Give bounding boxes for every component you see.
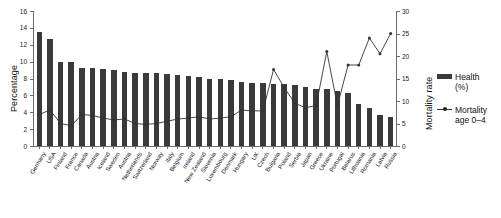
x-tick bbox=[252, 146, 253, 149]
x-tick bbox=[156, 146, 157, 149]
mortality-line-path bbox=[39, 34, 390, 126]
x-tick bbox=[348, 146, 349, 149]
x-tick bbox=[337, 146, 338, 149]
y-axis-left-title: Percentage bbox=[9, 65, 19, 112]
mortality-data-point: Poland: 13 bbox=[283, 86, 286, 89]
y-tick-label-left: 16 bbox=[11, 8, 27, 15]
y-tick-label-left: 14 bbox=[11, 24, 27, 31]
y-tick-right bbox=[397, 56, 400, 57]
y-tick-right bbox=[397, 124, 400, 125]
x-tick bbox=[262, 146, 263, 149]
x-tick bbox=[380, 146, 381, 149]
x-tick bbox=[316, 146, 317, 149]
mortality-data-point: Sweden: 5.8 bbox=[112, 118, 115, 121]
y-tick-left bbox=[30, 62, 33, 63]
y-tick-left bbox=[30, 95, 33, 96]
x-tick bbox=[326, 146, 327, 149]
mortality-data-point: Austria: 6 bbox=[123, 118, 126, 121]
x-tick bbox=[273, 146, 274, 149]
legend-item-health: Health (%) bbox=[437, 72, 501, 92]
y-tick-left bbox=[30, 112, 33, 113]
x-tick bbox=[135, 146, 136, 149]
y-tick-left bbox=[30, 129, 33, 130]
legend-label-mortality-line1: Mortality bbox=[455, 105, 501, 115]
mortality-data-point: Greece: 9 bbox=[315, 104, 318, 107]
y-tick-right bbox=[397, 34, 400, 35]
mortality-data-point: Hungary: 8 bbox=[240, 109, 243, 112]
y-tick-label-left: 0 bbox=[11, 143, 27, 150]
legend-label-health-line1: Health bbox=[455, 72, 501, 82]
x-tick bbox=[284, 146, 285, 149]
mortality-data-point: Romania: 24 bbox=[368, 37, 371, 40]
legend-label-mortality-line2: age 0–4 bbox=[455, 115, 501, 125]
y-axis-right-title: Mortality rate bbox=[424, 77, 434, 130]
x-tick bbox=[49, 146, 50, 149]
mortality-data-point: Ukraine: 21 bbox=[325, 50, 328, 53]
mortality-data-point: Slovenia: 6 bbox=[208, 118, 211, 121]
y-tick-label-left: 2 bbox=[11, 126, 27, 133]
x-tick bbox=[113, 146, 114, 149]
x-tick bbox=[305, 146, 306, 149]
bar-swatch-icon bbox=[437, 74, 452, 79]
line-series-mortality: Germany: 7USA: 8Finland: 5France: 4.5Can… bbox=[34, 11, 396, 146]
x-tick bbox=[81, 146, 82, 149]
mortality-data-point: France: 4.5 bbox=[70, 124, 73, 127]
x-tick bbox=[230, 146, 231, 149]
legend-label-health-line2: (%) bbox=[455, 82, 501, 92]
y-tick-label-left: 8 bbox=[11, 75, 27, 82]
x-tick bbox=[103, 146, 104, 149]
mortality-data-point: Serbia: 9.5 bbox=[293, 102, 296, 105]
y-tick-right bbox=[397, 11, 400, 12]
mortality-data-point: Belgium: 6 bbox=[176, 118, 179, 121]
x-tick bbox=[39, 146, 40, 149]
mortality-data-point: Bulgaria: 17 bbox=[272, 68, 275, 71]
mortality-data-point: UK: 7.8 bbox=[251, 109, 254, 112]
x-tick bbox=[92, 146, 93, 149]
x-tick bbox=[188, 146, 189, 149]
x-tick bbox=[209, 146, 210, 149]
mortality-data-point: Netherlands: 5 bbox=[134, 122, 137, 125]
y-tick-left bbox=[30, 28, 33, 29]
mortality-data-point: Austria: 6.8 bbox=[91, 114, 94, 117]
y-tick-label-left: 10 bbox=[11, 58, 27, 65]
mortality-data-point: Russia: 25 bbox=[389, 32, 392, 35]
mortality-data-point: Lithuania: 18 bbox=[357, 64, 360, 67]
x-tick bbox=[358, 146, 359, 149]
y-tick-label-right: 25 bbox=[402, 30, 418, 37]
dual-axis-chart: Percentage Mortality rate 0246810121416 … bbox=[0, 0, 501, 218]
mortality-data-point: Canada: 7 bbox=[80, 113, 83, 116]
y-tick-label-right: 5 bbox=[402, 120, 418, 127]
mortality-data-point: Belarus: 18 bbox=[347, 64, 350, 67]
x-tick bbox=[199, 146, 200, 149]
x-tick bbox=[369, 146, 370, 149]
y-tick-label-left: 12 bbox=[11, 41, 27, 48]
y-tick-label-left: 6 bbox=[11, 92, 27, 99]
y-tick-label-right: 30 bbox=[402, 8, 418, 15]
mortality-data-point: Denmark: 6.5 bbox=[229, 115, 232, 118]
mortality-data-point: Japan: 8.5 bbox=[304, 106, 307, 109]
y-tick-left bbox=[30, 45, 33, 46]
mortality-data-point: Switzerland: 4.8 bbox=[144, 123, 147, 126]
x-tick bbox=[60, 146, 61, 149]
x-tick bbox=[124, 146, 125, 149]
mortality-data-point: Germany: 7 bbox=[38, 113, 41, 116]
y-tick-left bbox=[30, 11, 33, 12]
x-axis-category-labels: GermanyUSAFinlandFranceCanadaAustriaIcel… bbox=[34, 149, 396, 215]
line-dot-swatch-icon bbox=[437, 109, 452, 110]
x-tick bbox=[220, 146, 221, 149]
y-tick-label-right: 10 bbox=[402, 98, 418, 105]
y-tick-label-right: 15 bbox=[402, 75, 418, 82]
chart-legend: Health (%) Mortality age 0–4 bbox=[437, 72, 501, 138]
y-tick-label-right: 20 bbox=[402, 53, 418, 60]
mortality-data-point: Finland: 5 bbox=[59, 122, 62, 125]
x-tick bbox=[177, 146, 178, 149]
legend-item-mortality: Mortality age 0–4 bbox=[437, 105, 501, 125]
x-tick bbox=[71, 146, 72, 149]
mortality-data-point: USA: 8 bbox=[48, 109, 51, 112]
x-tick bbox=[390, 146, 391, 149]
y-tick-left bbox=[30, 79, 33, 80]
mortality-data-point: Czech: 7.8 bbox=[261, 109, 264, 112]
y-tick-right bbox=[397, 101, 400, 102]
mortality-data-point: Portugal: 9 bbox=[336, 104, 339, 107]
mortality-data-point: New Zealand: 6.5 bbox=[198, 115, 201, 118]
